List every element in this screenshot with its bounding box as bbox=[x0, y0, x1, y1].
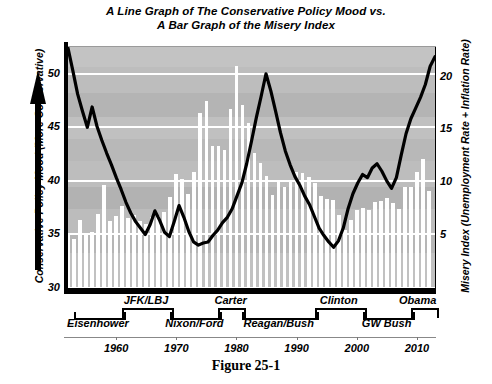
figure-25-1: A Line Graph of The Conservative Policy … bbox=[0, 0, 492, 384]
left-tick-label: 45 bbox=[34, 120, 60, 132]
year-tick bbox=[176, 337, 177, 340]
right-tick-label: 5 bbox=[440, 228, 466, 240]
year-label: 1970 bbox=[164, 342, 188, 354]
plot-top-border bbox=[68, 46, 436, 47]
president-brackets: JFK/LBJCarterClintonObamaEisenhowerNixon… bbox=[64, 294, 436, 332]
year-tick bbox=[297, 337, 298, 340]
year-axis-rule bbox=[64, 337, 436, 338]
chart-title-line-2: A Bar Graph of the Misery Index bbox=[0, 18, 492, 32]
president-bracket bbox=[411, 308, 439, 318]
year-axis: 196019701980199020002010 bbox=[64, 337, 436, 339]
year-label: 1990 bbox=[284, 342, 308, 354]
year-label: 1980 bbox=[224, 342, 248, 354]
chart-title-line-1: A Line Graph of The Conservative Policy … bbox=[0, 4, 492, 18]
right-tick-label: 20 bbox=[440, 70, 466, 82]
year-label: 1960 bbox=[104, 342, 128, 354]
right-tick-label: 10 bbox=[440, 175, 466, 187]
president-label: Clinton bbox=[320, 294, 358, 306]
left-axis-rule bbox=[64, 42, 68, 290]
year-label: 2000 bbox=[345, 342, 369, 354]
president-label: Carter bbox=[214, 294, 246, 306]
left-tick-label: 40 bbox=[34, 174, 60, 186]
line-series-policy-mood bbox=[68, 47, 435, 288]
left-tick-label: 30 bbox=[34, 281, 60, 293]
year-tick bbox=[236, 337, 237, 340]
left-tick-label: 35 bbox=[34, 227, 60, 239]
president-label: GW Bush bbox=[362, 317, 412, 329]
president-label: Nixon/Ford bbox=[165, 317, 223, 329]
left-tick-label: 50 bbox=[34, 67, 60, 79]
year-tick bbox=[357, 337, 358, 340]
year-label: 2010 bbox=[405, 342, 429, 354]
chart-title: A Line Graph of The Conservative Policy … bbox=[0, 4, 492, 32]
president-label: JFK/LBJ bbox=[124, 294, 169, 306]
president-label: Reagan/Bush bbox=[244, 317, 314, 329]
president-bracket bbox=[315, 308, 367, 318]
right-axis-rule bbox=[435, 47, 436, 288]
year-tick bbox=[417, 337, 418, 340]
year-tick bbox=[116, 337, 117, 340]
figure-caption: Figure 25-1 bbox=[0, 358, 492, 374]
president-label: Obama bbox=[399, 294, 436, 306]
right-tick-label: 15 bbox=[440, 122, 466, 134]
plot-area bbox=[68, 47, 435, 288]
president-label: Eisenhower bbox=[67, 317, 129, 329]
